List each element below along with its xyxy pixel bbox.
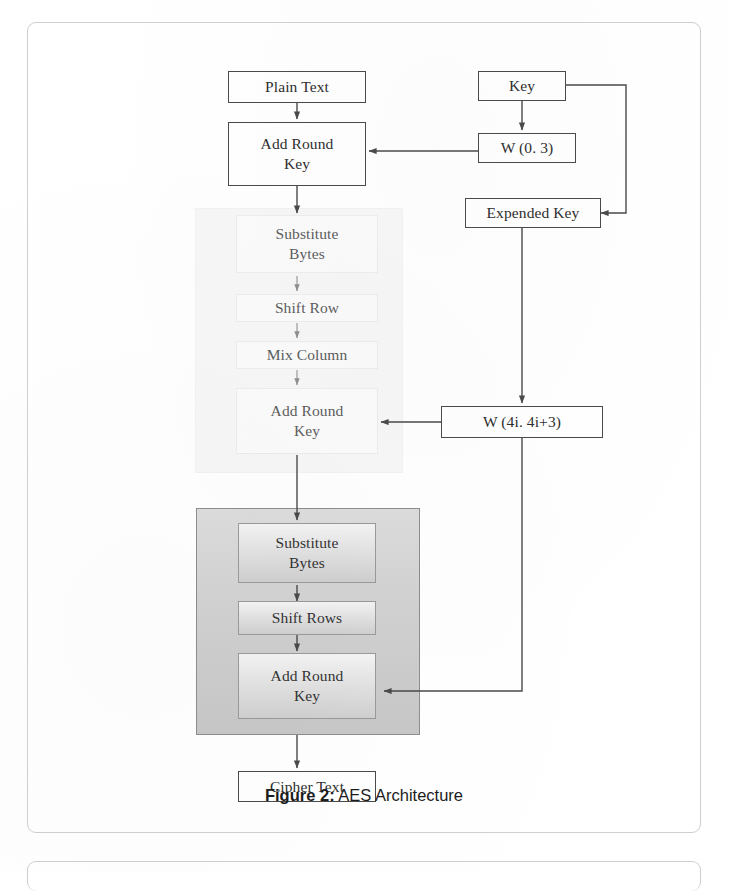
aes-architecture-diagram: Plain Text Add Round Key Key W (0. 3) Ex… <box>28 23 729 823</box>
node-plain-text[interactable]: Plain Text <box>228 71 366 103</box>
node-w-0-3[interactable]: W (0. 3) <box>478 133 576 163</box>
node-w-4i-4i3[interactable]: W (4i. 4i+3) <box>441 406 603 438</box>
figure-caption: Figure 2: AES Architecture <box>27 786 701 805</box>
figure-caption-text: AES Architecture <box>335 786 463 804</box>
node-key[interactable]: Key <box>478 71 566 101</box>
node-final-add-round-key[interactable]: Add Round Key <box>238 653 376 719</box>
figure-caption-label: Figure 2: <box>265 786 335 804</box>
node-round-substitute-bytes[interactable]: Substitute Bytes <box>236 215 378 273</box>
node-expended-key[interactable]: Expended Key <box>465 198 601 228</box>
node-round-mix-column[interactable]: Mix Column <box>236 341 378 369</box>
figure-panel: Plain Text Add Round Key Key W (0. 3) Ex… <box>27 22 701 833</box>
node-round-shift-row[interactable]: Shift Row <box>236 294 378 322</box>
node-final-shift-rows[interactable]: Shift Rows <box>238 601 376 635</box>
node-add-round-key-initial[interactable]: Add Round Key <box>228 122 366 186</box>
next-content-panel <box>27 861 701 891</box>
node-final-substitute-bytes[interactable]: Substitute Bytes <box>238 523 376 583</box>
node-round-add-round-key[interactable]: Add Round Key <box>236 388 378 454</box>
